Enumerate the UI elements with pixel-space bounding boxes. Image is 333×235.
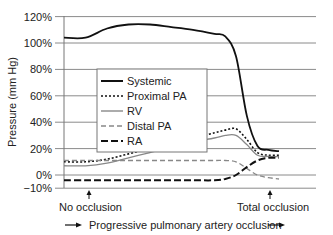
y-tick-label: 20% — [30, 143, 52, 155]
legend-label-systemic: Systemic — [127, 75, 172, 87]
y-tick-label: 80% — [30, 63, 52, 75]
up-arrowhead-icon — [87, 190, 92, 195]
y-tick-label: 60% — [30, 90, 52, 102]
no-occlusion-label: No occlusion — [59, 201, 122, 213]
legend: Systemic Proximal PA RV Distal PA RA — [97, 69, 207, 152]
pressure-line-chart: 120%100%80%60%40%20%0%−10% Pressure (mm … — [0, 0, 333, 235]
y-tick-label: −10% — [24, 182, 53, 194]
total-occlusion-label: Total occlusion — [237, 201, 309, 213]
y-tick-label: 120% — [24, 11, 52, 23]
total-occlusion-annotation: Total occlusion — [237, 190, 309, 213]
legend-label-ra: RA — [127, 135, 143, 147]
x-axis-caption: Progressive pulmonary artery occlusion — [65, 219, 285, 231]
legend-label-proximal-pa: Proximal PA — [127, 90, 187, 102]
right-arrowhead-icon — [76, 223, 82, 228]
y-tick-label: 0% — [36, 169, 52, 181]
no-occlusion-annotation: No occlusion — [59, 190, 122, 213]
x-axis-label: Progressive pulmonary artery occlusion — [89, 219, 282, 231]
y-tick-label: 40% — [30, 116, 52, 128]
legend-label-distal-pa: Distal PA — [127, 120, 172, 132]
legend-label-rv: RV — [127, 105, 143, 117]
y-axis-label: Pressure (mm Hg) — [6, 57, 18, 147]
y-tick-label: 100% — [24, 37, 52, 49]
up-arrowhead-icon — [268, 190, 273, 195]
right-arrowhead-icon — [279, 223, 285, 228]
y-tick-labels: 120%100%80%60%40%20%0%−10% — [24, 11, 53, 195]
series-line-distal-pa — [64, 160, 279, 179]
